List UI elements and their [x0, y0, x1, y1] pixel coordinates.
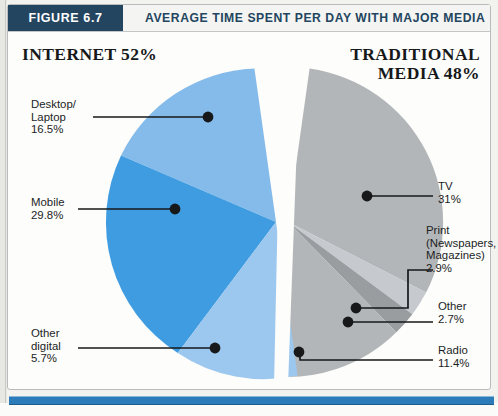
dot-radio — [294, 347, 305, 358]
dot-tv — [362, 191, 373, 202]
label-tv: TV 31% — [438, 180, 461, 205]
label-mobile: Mobile 29.8% — [31, 196, 65, 221]
label-print: Print (Newspapers, Magazines) 2.9% — [426, 224, 496, 274]
label-other-digital: Other digital 5.7% — [31, 327, 61, 365]
dot-print — [351, 303, 362, 314]
pie-chart — [0, 0, 498, 416]
dot-other-digital — [210, 343, 221, 354]
label-other: Other 2.7% — [438, 300, 467, 325]
figure-container: FIGURE 6.7 AVERAGE TIME SPENT PER DAY WI… — [0, 0, 498, 416]
label-radio: Radio 11.4% — [438, 344, 469, 369]
bottom-accent-rule — [9, 396, 494, 405]
label-desktop-laptop: Desktop/ Laptop 16.5% — [31, 98, 76, 136]
dot-other — [343, 317, 354, 328]
dot-desktop-laptop — [203, 112, 214, 123]
dot-mobile — [170, 204, 181, 215]
